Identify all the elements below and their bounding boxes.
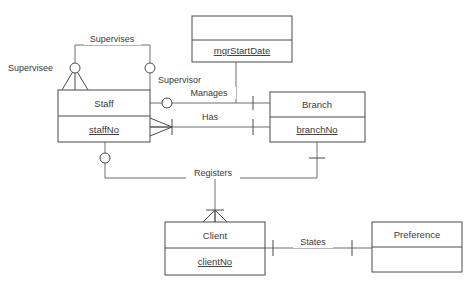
label-supervises-text: Supervises: [90, 34, 135, 44]
optional-circle-supervisee: [70, 63, 80, 73]
label-manages-text: Manages: [190, 88, 228, 98]
optional-circle-manages-staff: [162, 98, 172, 108]
connection-supervises: [75, 45, 150, 90]
entity-mgr-start-date[interactable]: mgrStartDate: [192, 16, 292, 62]
optional-circle-supervisor: [145, 63, 155, 73]
entity-client[interactable]: Client clientNo: [165, 222, 265, 275]
entity-branch-name: Branch: [302, 99, 332, 110]
label-supervisor-text: Supervisor: [158, 75, 201, 85]
label-states: States: [293, 236, 333, 248]
optional-circle-registers-staff: [100, 153, 110, 163]
label-has: Has: [196, 111, 224, 123]
label-has-text: Has: [202, 112, 219, 122]
entity-preference-name: Preference: [394, 229, 440, 240]
entity-staff-attribute: staffNo: [89, 124, 119, 135]
crows-foot-has-staff: [150, 118, 172, 136]
label-registers-text: Registers: [194, 168, 233, 178]
er-diagram-canvas: mgrStartDate Staff staffNo Branch branch…: [0, 0, 474, 283]
entity-preference[interactable]: Preference: [372, 222, 462, 272]
label-manages: Manages: [181, 87, 236, 99]
entity-branch[interactable]: Branch branchNo: [270, 92, 365, 142]
label-supervises: Supervises: [84, 33, 141, 45]
entity-client-name: Client: [203, 230, 228, 241]
label-supervisee: Supervisee: [6, 62, 64, 74]
entity-client-attribute: clientNo: [198, 256, 232, 267]
entity-staff[interactable]: Staff staffNo: [58, 90, 150, 142]
label-states-text: States: [300, 237, 326, 247]
crows-foot-registers-client: [203, 210, 227, 222]
label-supervisee-text: Supervisee: [8, 63, 53, 73]
entity-staff-name: Staff: [94, 98, 114, 109]
label-registers: Registers: [186, 167, 240, 179]
entity-branch-attribute: branchNo: [296, 124, 337, 135]
er-diagram-svg: mgrStartDate Staff staffNo Branch branch…: [0, 0, 474, 283]
entity-mgr-start-date-attribute: mgrStartDate: [214, 45, 271, 56]
label-supervisor: Supervisor: [156, 74, 212, 86]
